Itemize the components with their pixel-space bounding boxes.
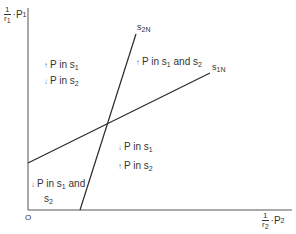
region-bottom-left-sub2: 2 [49, 198, 53, 205]
label-s2n: s2N [137, 22, 150, 32]
region-bottom-right-text2: P in s [124, 160, 149, 171]
s1n-sub: 1N [217, 66, 226, 73]
arrow-up-icon: ↑ [119, 161, 122, 172]
region-bottom-left-line2: s2 [44, 193, 53, 204]
arrow-down-icon: ↓ [32, 179, 35, 190]
x-axis-label: 1 r2 ·P2 [262, 212, 284, 229]
region-left-sub1: 1 [75, 64, 79, 71]
region-left-sub2: 2 [75, 80, 79, 87]
x-frac-den-sub: 2 [265, 223, 269, 230]
arrow-down-icon: ↓ [119, 142, 122, 153]
origin-label: O [25, 213, 31, 222]
y-var: ·P [13, 9, 23, 20]
arrow-down-icon: ↓ [45, 76, 48, 87]
region-left-text2: P in s [50, 75, 75, 86]
region-top-right-mid: and s [171, 56, 198, 67]
x-axis-fraction: 1 r2 [262, 212, 269, 229]
region-bottom-right-line2: ↑P in s2 [118, 160, 153, 172]
region-left-line2: ↓P in s2 [44, 75, 79, 87]
region-top-right-text: P in s [142, 56, 167, 67]
region-bottom-right-line1: ↓P in s1 [118, 141, 153, 153]
region-bottom-right-sub1: 1 [149, 146, 153, 153]
line-s2n [80, 34, 136, 210]
x-var: ·P [271, 215, 281, 226]
y-frac-den-sub: 1 [7, 17, 11, 24]
arrow-up-icon: ↑ [137, 57, 140, 68]
region-bottom-left-mid: and [66, 178, 85, 189]
y-axis-fraction: 1 r1 [4, 6, 11, 23]
region-left-line1: ↑P in s1 [44, 59, 79, 71]
label-s1n: s1N [212, 62, 225, 72]
arrow-up-icon: ↑ [45, 60, 48, 71]
region-bottom-left-line1: ↓P in s1 and [31, 178, 85, 190]
region-left-text1: P in s [50, 59, 75, 70]
y-axis-label: 1 r1 ·P1 [4, 6, 26, 23]
region-bottom-right-text1: P in s [124, 141, 149, 152]
region-bottom-left-text1: P in s [37, 178, 62, 189]
region-top-right-line1: ↑P in s1 and s2 [136, 56, 202, 68]
s2n-sub: 2N [142, 26, 151, 33]
region-top-right-sub2: 2 [198, 61, 202, 68]
region-bottom-right-sub2: 2 [149, 165, 153, 172]
